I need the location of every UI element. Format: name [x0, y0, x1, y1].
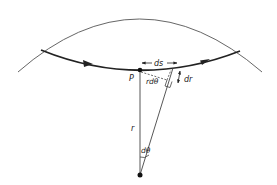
- trajectory-path: [41, 50, 240, 70]
- label-dtheta: dθ: [141, 146, 151, 155]
- dr-arrow: [178, 71, 180, 83]
- outer-arc: [18, 19, 262, 72]
- diagram-canvas: P ds dr rdθ r dθ: [0, 0, 277, 185]
- label-p: P: [129, 74, 134, 83]
- label-ds: ds: [154, 59, 163, 68]
- point-p-dot: [138, 68, 143, 73]
- label-r: r: [131, 124, 135, 133]
- angle-arc: [140, 155, 149, 158]
- center-dot: [138, 173, 143, 178]
- label-dr: dr: [184, 75, 193, 84]
- label-rdtheta: rdθ: [146, 77, 159, 86]
